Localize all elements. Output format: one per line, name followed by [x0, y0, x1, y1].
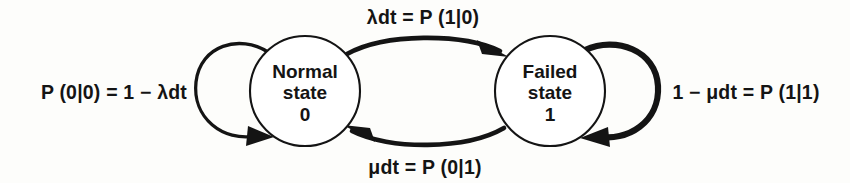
normal-state-line1: Normal — [272, 61, 337, 82]
normal-state-line3: 0 — [300, 104, 311, 125]
transition-normal-to-failed-arrowhead — [477, 40, 509, 57]
failed-state-line3: 1 — [545, 104, 556, 125]
self-loop-normal-label: P (0|0) = 1 − λdt — [41, 81, 187, 103]
transition-normal-to-failed-label: λdt = P (1|0) — [367, 6, 479, 28]
diagram-canvas: Normal state 0 Failed state 1 λdt = P (1… — [0, 0, 850, 183]
failed-state-line1: Failed — [523, 61, 578, 82]
state-transition-diagram: Normal state 0 Failed state 1 λdt = P (1… — [0, 0, 850, 183]
transition-failed-to-normal-label: μdt = P (0|1) — [368, 156, 481, 178]
transition-normal-to-failed-curve — [347, 38, 500, 54]
transition-normal-to-failed-group — [347, 38, 509, 57]
failed-state-line2: state — [528, 82, 572, 103]
normal-state-line2: state — [283, 82, 327, 103]
transition-failed-to-normal-curve — [352, 128, 504, 145]
transition-failed-to-normal-group — [343, 125, 504, 145]
transition-failed-to-normal-arrowhead — [343, 125, 375, 142]
self-loop-failed-label: 1 − μdt = P (1|1) — [672, 81, 819, 103]
normal-state-node[interactable]: Normal state 0 — [250, 36, 360, 146]
failed-state-node[interactable]: Failed state 1 — [495, 36, 605, 146]
